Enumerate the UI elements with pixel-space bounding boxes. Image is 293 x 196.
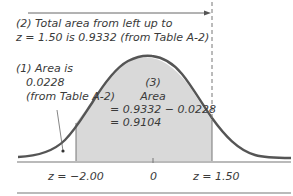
total-area-annotation-line1: (2) Total area from left up to	[16, 18, 172, 30]
middle-area-annotation-line1: (3)	[133, 77, 173, 89]
total-area-annotation-line2: z = 1.50 is 0.9332 (from Table A-2)	[16, 32, 209, 44]
left-area-annotation-line2: 0.0228	[26, 77, 65, 89]
middle-area-annotation-line4: = 0.9104	[110, 117, 161, 129]
arrow-head-icon	[204, 11, 211, 16]
left-area-annotation-line3: (from Table A-2)	[26, 91, 115, 103]
middle-area-annotation-line2: Area	[133, 91, 173, 103]
axis-label-right: z = 1.50	[193, 171, 239, 183]
axis-label-center: 0	[150, 171, 157, 183]
left-area-annotation-line1: (1) Area is	[16, 63, 73, 75]
leader-dot	[61, 149, 64, 152]
axis-label-left: z = −2.00	[48, 171, 104, 183]
middle-area-annotation-line3: = 0.9332 − 0.0228	[110, 104, 216, 116]
